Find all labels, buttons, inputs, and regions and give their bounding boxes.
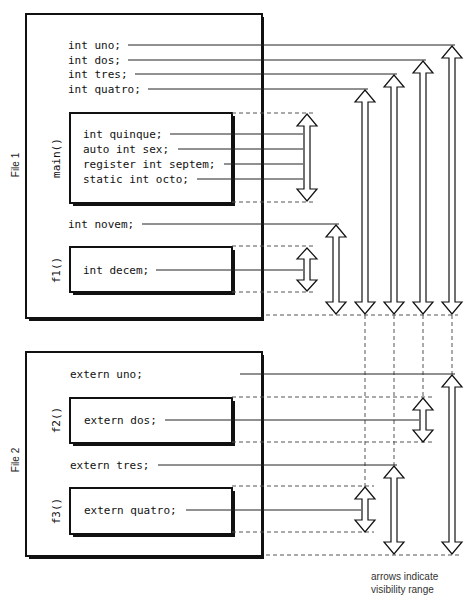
variable-scope-diagram: File 1 int uno; int dos; int tres; int q…	[0, 0, 475, 603]
tres-file2-visibility-arrow	[384, 466, 404, 554]
cross-file-connectors	[365, 315, 452, 488]
decl-extern-uno: extern uno;	[70, 368, 143, 381]
tres-file1-visibility-arrow	[384, 75, 404, 314]
f3-label: f3()	[50, 498, 63, 525]
novem-visibility-arrow	[326, 225, 346, 314]
decl-static-int-octo: static int octo;	[83, 173, 189, 186]
decl-int-decem: int decem;	[83, 264, 149, 277]
decl-int-uno: int uno;	[68, 39, 121, 52]
decl-int-quinque: int quinque;	[83, 128, 162, 141]
legend-line-2: visibility range	[371, 584, 434, 595]
decl-int-novem: int novem;	[68, 218, 134, 231]
f1-label: f1()	[50, 257, 63, 284]
decl-extern-tres: extern tres;	[70, 459, 149, 472]
decl-int-quatro: int quatro;	[68, 83, 141, 96]
dos-file1-visibility-arrow	[413, 61, 433, 314]
decl-int-dos: int dos;	[68, 54, 121, 67]
decl-int-tres: int tres;	[68, 68, 128, 81]
decl-extern-quatro: extern quatro;	[84, 504, 177, 517]
file1-label: File 1	[10, 152, 21, 177]
quatro-file1-visibility-arrow	[355, 90, 375, 314]
legend-line-1: arrows indicate	[371, 571, 439, 582]
file2-label: File 2	[10, 447, 21, 472]
decl-register-int-septem: register int septem;	[83, 158, 215, 171]
decl-auto-int-sex: auto int sex;	[83, 143, 169, 156]
uno-file1-visibility-arrow	[442, 46, 462, 314]
main-label: main()	[50, 138, 63, 178]
f2-label: f2()	[50, 407, 63, 434]
main-visibility-arrow	[297, 114, 317, 201]
uno-file2-visibility-arrow	[442, 375, 462, 554]
decl-extern-dos: extern dos;	[84, 414, 157, 427]
